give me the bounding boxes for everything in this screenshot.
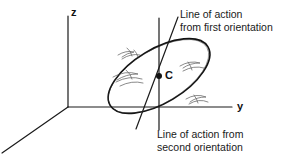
annotation-line-of-action-second: Line of action from second orientation [157,128,243,153]
y-axis-label: y [237,101,243,112]
annotation-line-of-action-first: Line of action from first orientation [180,8,273,33]
annotation-first-line-2: from first orientation [180,21,273,34]
x-axis [2,107,68,153]
annotation-first-line-1: Line of action [180,8,273,21]
annotation-second-line-1: Line of action from [157,128,243,141]
figure-line-of-action-diagram: z y C Line of action from first orientat… [0,0,287,162]
annotation-second-line-2: second orientation [157,141,243,154]
centroid-point [156,73,162,79]
z-axis-label: z [71,7,77,18]
centroid-label: C [165,70,173,81]
